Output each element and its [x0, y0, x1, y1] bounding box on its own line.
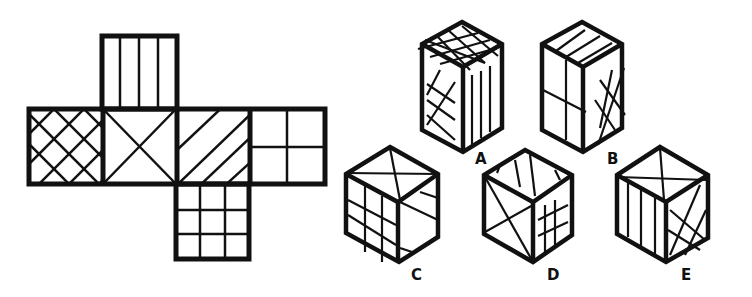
cube-option-a[interactable]	[418, 22, 502, 152]
cube-option-b[interactable]	[542, 22, 625, 152]
cube-option-c[interactable]	[346, 147, 438, 262]
cube-option-d[interactable]	[484, 150, 572, 262]
option-label-d: D	[547, 266, 559, 284]
net-face-diagonal	[177, 100, 255, 190]
puzzle-canvas	[0, 0, 752, 297]
cube-net	[29, 24, 325, 259]
net-face-top	[120, 36, 158, 108]
option-label-b: B	[607, 150, 618, 168]
cube-option-e[interactable]	[617, 147, 708, 262]
net-face-2x2	[250, 109, 324, 184]
net-face-3x3	[176, 185, 249, 259]
option-label-c: C	[411, 266, 422, 284]
net-face-x	[103, 109, 176, 184]
net-face-crosshatch	[29, 24, 105, 254]
option-label-a: A	[475, 150, 487, 168]
option-label-e: E	[681, 266, 691, 284]
